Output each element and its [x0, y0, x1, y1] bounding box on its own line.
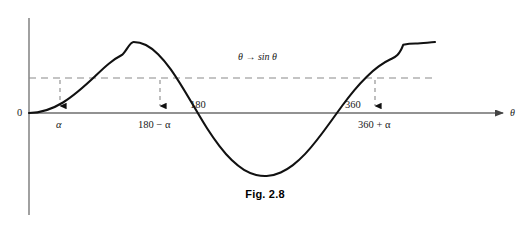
- x-tick-label-180: 180: [190, 100, 206, 111]
- x-tick-label-180-minus-alpha: 180 − α: [138, 120, 170, 131]
- figure-caption: Fig. 2.8: [0, 188, 530, 200]
- x-axis-label-theta: θ: [510, 108, 515, 118]
- figure-container: 0 α 180 − α 180 360 360 + α θ θ → sin θ …: [0, 0, 530, 226]
- x-tick-label-360: 360: [345, 100, 361, 111]
- origin-label: 0: [17, 108, 22, 119]
- sine-curve-path: [29, 42, 435, 176]
- x-tick-label-alpha: α: [56, 120, 62, 131]
- x-tick-label-360-plus-alpha: 360 + α: [358, 120, 390, 131]
- function-label: θ → sin θ: [238, 52, 277, 62]
